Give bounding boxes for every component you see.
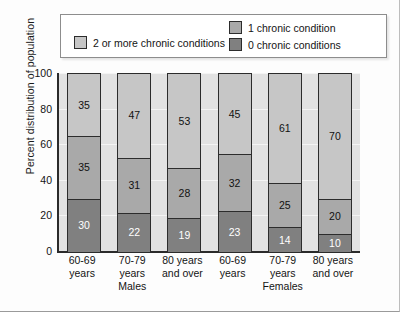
legend-label-2-or-more: 2 or more chronic conditions: [93, 37, 225, 49]
bar-value-label: 35: [78, 99, 90, 111]
bar-value-label: 22: [128, 226, 140, 238]
bar-value-label: 28: [179, 187, 191, 199]
bar-value-label: 31: [128, 179, 140, 191]
bar-6-segment-2: 70: [319, 74, 351, 199]
bar-6-segment-1: 20: [319, 199, 351, 235]
legend-swatch-1-condition-icon: [229, 21, 242, 34]
bar-value-label: 10: [329, 237, 341, 249]
bar-6-segment-0: 10: [319, 234, 351, 252]
bar-5-segment-1: 25: [269, 183, 301, 228]
bar-3[interactable]: 532819: [167, 73, 201, 251]
bar-2-segment-2: 47: [118, 74, 150, 158]
legend-label-0-conditions: 0 chronic conditions: [248, 39, 341, 51]
bar-value-label: 30: [78, 219, 90, 231]
bar-value-label: 20: [329, 210, 341, 222]
bar-value-label: 25: [279, 199, 291, 211]
bar-3-segment-1: 28: [168, 168, 200, 218]
gridline: [59, 180, 360, 181]
bar-2-segment-0: 22: [118, 213, 150, 252]
bar-4[interactable]: 453223: [218, 73, 252, 251]
legend-swatch-0-conditions-icon: [229, 38, 242, 51]
gridline: [59, 215, 360, 216]
bar-value-label: 53: [179, 115, 191, 127]
y-axis-tick-20: 20: [4, 209, 52, 221]
y-axis-tick-40: 40: [4, 174, 52, 186]
bar-4-segment-0: 23: [219, 211, 251, 252]
bar-value-label: 19: [179, 229, 191, 241]
bar-5-segment-0: 14: [269, 227, 301, 252]
bar-1-segment-0: 30: [68, 199, 100, 252]
y-axis-tick-60: 60: [4, 138, 52, 150]
legend-item-0-conditions: 0 chronic conditions: [229, 38, 341, 51]
bar-value-label: 70: [329, 130, 341, 142]
bar-3-segment-0: 19: [168, 218, 200, 252]
group-label-males: Males: [92, 280, 172, 292]
y-axis-tick-0: 0: [4, 245, 52, 257]
gridline: [59, 73, 360, 74]
chart-figure: Percent distribution of population 02040…: [0, 0, 400, 312]
group-label-females: Females: [243, 280, 323, 292]
x-axis-group-labels: MalesFemales: [57, 280, 358, 296]
bar-value-label: 23: [229, 226, 241, 238]
y-axis-tick-80: 80: [4, 103, 52, 115]
x-axis-tick-line: and over: [300, 267, 366, 280]
bar-1-segment-2: 35: [68, 74, 100, 136]
bar-value-label: 32: [229, 177, 241, 189]
bar-2-segment-1: 31: [118, 158, 150, 213]
y-axis-tick-labels: 020406080100: [0, 73, 52, 251]
bar-value-label: 14: [279, 234, 291, 246]
legend-item-2-or-more: 2 or more chronic conditions: [74, 36, 225, 49]
bar-value-label: 45: [229, 108, 241, 120]
gridline: [59, 144, 360, 145]
bar-value-label: 47: [128, 109, 140, 121]
x-axis-tick-6: 80 yearsand over: [300, 254, 366, 279]
gridline: [59, 109, 360, 110]
bar-5[interactable]: 612514: [268, 73, 302, 251]
bar-4-segment-1: 32: [219, 154, 251, 211]
bar-5-segment-2: 61: [269, 74, 301, 183]
chart-legend: 2 or more chronic conditions 1 chronic c…: [60, 14, 387, 58]
bar-2[interactable]: 473122: [117, 73, 151, 251]
legend-swatch-2-or-more-icon: [74, 36, 87, 49]
bar-value-label: 35: [78, 161, 90, 173]
bar-6[interactable]: 702010: [318, 73, 352, 251]
y-axis-tick-100: 100: [4, 67, 52, 79]
x-axis-tick-line: 80 years: [300, 254, 366, 267]
bar-4-segment-2: 45: [219, 74, 251, 154]
bar-value-label: 61: [279, 122, 291, 134]
bar-1-segment-1: 35: [68, 136, 100, 198]
legend-label-1-condition: 1 chronic condition: [248, 22, 336, 34]
plot-area: 353530473122532819453223612514702010: [57, 73, 360, 253]
bar-1[interactable]: 353530: [67, 73, 101, 251]
legend-item-1-condition: 1 chronic condition: [229, 21, 336, 34]
bar-3-segment-2: 53: [168, 74, 200, 168]
